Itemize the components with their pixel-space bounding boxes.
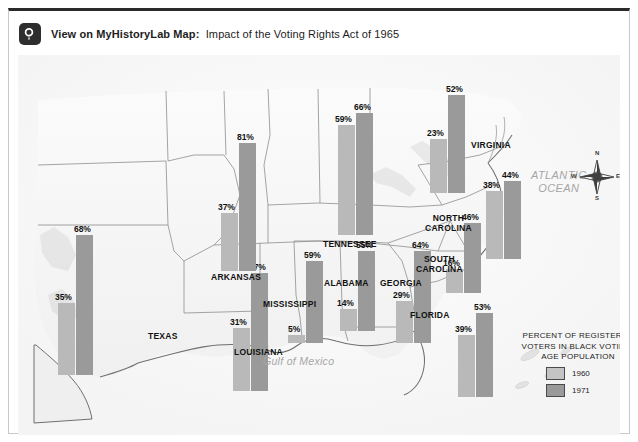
state-label-north-carolina-line1: NORTH (433, 213, 464, 223)
bar-arkansas-1960 (221, 213, 238, 271)
state-label-texas: TEXAS (148, 331, 178, 341)
value-louisiana-1960: 31% (230, 317, 247, 327)
bar-florida-1960 (458, 335, 475, 397)
bar-virginia-1960 (430, 139, 447, 193)
bargroup-north-carolina[interactable]: 38% 44% (486, 181, 522, 259)
state-label-florida: FLORIDA (410, 310, 450, 320)
bar-north-carolina-1960 (486, 191, 503, 259)
bar-alabama-1960 (340, 309, 357, 331)
compass-west: W (571, 173, 577, 179)
legend-title: PERCENT OF REGISTERED VOTERS IN BLACK VO… (515, 331, 620, 363)
state-label-virginia: VIRGINIA (471, 140, 511, 150)
value-arkansas-1971: 81% (237, 132, 254, 142)
bargroup-arkansas[interactable]: 37% 81% (221, 143, 257, 271)
bar-louisiana-1971 (251, 273, 268, 391)
bar-south-carolina-1971 (464, 223, 481, 293)
state-label-georgia: GEORGIA (380, 278, 422, 288)
header-colon: : (196, 28, 200, 40)
state-label-south-carolina-line2: CAROLINA (416, 264, 463, 274)
legend-label-1971: 1971 (572, 386, 590, 395)
bar-florida-1971 (476, 313, 493, 397)
state-label-south-carolina: SOUTH CAROLINA (416, 254, 463, 274)
value-mississippi-1971: 59% (304, 250, 321, 260)
value-texas-1971: 68% (74, 224, 91, 234)
header-bar: View on MyHistoryLab Map: Impact of the … (19, 19, 619, 49)
value-georgia-1971: 64% (412, 240, 429, 250)
state-label-north-carolina: NORTH CAROLINA (425, 213, 472, 233)
bargroup-virginia[interactable]: 23% 52% (430, 95, 466, 193)
header-subject: Impact of the Voting Rights Act of 1965 (206, 28, 399, 40)
magnifier-icon (19, 23, 41, 45)
bar-georgia-1960 (396, 301, 413, 343)
value-georgia-1960: 29% (393, 290, 410, 300)
value-north-carolina-1971: 44% (502, 170, 519, 180)
header-view-prefix: View on (51, 28, 96, 40)
compass-north: N (595, 150, 599, 156)
value-tennessee-1960: 59% (335, 114, 352, 124)
bargroup-florida[interactable]: 39% 53% (458, 313, 494, 397)
value-tennessee-1971: 66% (354, 102, 371, 112)
value-arkansas-1960: 37% (218, 202, 235, 212)
compass-south: S (595, 195, 599, 201)
bar-mississippi-1960 (288, 335, 305, 343)
bar-alabama-1971 (358, 251, 375, 331)
state-label-alabama: ALABAMA (324, 278, 369, 288)
value-north-carolina-1960: 38% (483, 180, 500, 190)
state-label-arkansas: ARKANSAS (211, 272, 261, 282)
value-mississippi-1960: 5% (288, 324, 300, 334)
value-florida-1971: 53% (474, 302, 491, 312)
map-canvas[interactable]: 35% 68% TEXAS 31% 57% LOUISIANA 37% 81% … (18, 55, 620, 435)
bargroup-alabama[interactable]: 14% 55% (340, 251, 376, 331)
state-label-mississippi: MISSISSIPPI (263, 299, 316, 309)
header-brand: MyHistoryLab Map (96, 28, 195, 40)
compass-rose-icon: N E S W (571, 151, 620, 205)
bar-north-carolina-1971 (504, 181, 521, 259)
bar-texas-1971 (76, 235, 93, 375)
bargroup-texas[interactable]: 35% 68% (58, 235, 94, 375)
legend-row-1960: 1960 (546, 367, 620, 380)
value-virginia-1960: 23% (427, 128, 444, 138)
bargroup-tennessee[interactable]: 59% 66% (338, 113, 374, 235)
bargroup-louisiana[interactable]: 31% 57% (233, 273, 269, 391)
value-florida-1960: 39% (455, 324, 472, 334)
state-label-south-carolina-line1: SOUTH (424, 254, 455, 264)
header-title: View on MyHistoryLab Map: Impact of the … (51, 28, 399, 40)
legend-row-1971: 1971 (546, 384, 620, 397)
content-frame: View on MyHistoryLab Map: Impact of the … (8, 8, 630, 434)
compass-east: E (616, 173, 620, 179)
legend-swatch-1971 (546, 384, 565, 397)
bar-arkansas-1971 (239, 143, 256, 271)
value-texas-1960: 35% (55, 292, 72, 302)
bar-tennessee-1971 (356, 113, 373, 235)
state-label-north-carolina-line2: CAROLINA (425, 223, 472, 233)
bar-texas-1960 (58, 303, 75, 375)
legend-swatch-1960 (546, 367, 565, 380)
legend-label-1960: 1960 (572, 369, 590, 378)
value-alabama-1960: 14% (337, 298, 354, 308)
legend: PERCENT OF REGISTERED VOTERS IN BLACK VO… (515, 331, 620, 397)
bar-virginia-1971 (448, 95, 465, 193)
value-virginia-1971: 52% (446, 84, 463, 94)
bar-tennessee-1960 (338, 125, 355, 235)
gulf-of-mexico-label: Gulf of Mexico (263, 355, 334, 367)
map-infographic: View on MyHistoryLab Map: Impact of the … (0, 0, 638, 442)
bar-louisiana-1960 (233, 328, 250, 391)
state-label-tennessee: TENNESSEE (323, 239, 377, 249)
